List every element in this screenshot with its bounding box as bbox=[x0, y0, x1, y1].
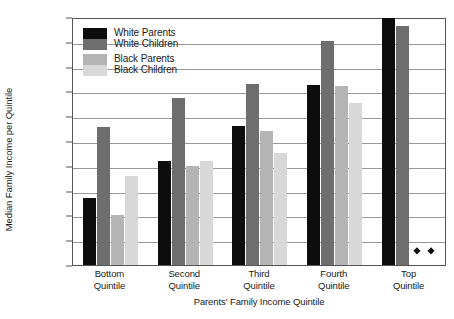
bar bbox=[200, 161, 213, 265]
x-tick-label: BottomQuintile bbox=[94, 268, 125, 291]
bar bbox=[158, 161, 171, 265]
bar bbox=[246, 84, 259, 265]
x-axis-ticks: BottomQuintileSecondQuintileThirdQuintil… bbox=[72, 268, 446, 296]
legend-label-white-children: White Children bbox=[114, 38, 178, 49]
bar bbox=[172, 98, 185, 265]
x-tick-label: ThirdQuintile bbox=[243, 268, 274, 291]
legend-swatch-black-parents bbox=[83, 54, 107, 65]
x-axis-title: Parents' Family Income Quintile bbox=[72, 296, 446, 307]
bar-group bbox=[297, 19, 372, 265]
bar bbox=[349, 103, 362, 265]
legend-swatches bbox=[83, 28, 107, 76]
legend-swatch-white-children bbox=[83, 39, 107, 50]
legend-labels: White Parents White Children Black Paren… bbox=[114, 27, 178, 75]
bar bbox=[274, 153, 287, 265]
suppressed-value-marker bbox=[410, 19, 423, 265]
bar bbox=[232, 126, 245, 265]
bar-group bbox=[223, 19, 298, 265]
bar bbox=[260, 131, 273, 265]
bar bbox=[111, 215, 124, 265]
chart-figure: Median Family Income per Quintile $0$10,… bbox=[0, 0, 454, 319]
legend-label-black-parents: Black Parents bbox=[114, 53, 178, 64]
bar bbox=[307, 85, 320, 265]
bar bbox=[382, 18, 395, 265]
bar bbox=[186, 166, 199, 265]
bar bbox=[321, 41, 334, 265]
bar bbox=[83, 198, 96, 265]
plot-area: White Parents White Children Black Paren… bbox=[72, 18, 446, 266]
x-tick-label: FourthQuintile bbox=[318, 268, 349, 291]
legend-label-white-parents: White Parents bbox=[114, 27, 178, 38]
bar bbox=[396, 26, 409, 265]
x-tick-label: TopQuintile bbox=[393, 268, 424, 291]
bar bbox=[335, 86, 348, 265]
diamond-icon bbox=[427, 247, 433, 253]
x-tick-label: SecondQuintile bbox=[168, 268, 200, 291]
diamond-icon bbox=[413, 247, 419, 253]
suppressed-value-marker bbox=[424, 19, 437, 265]
bar bbox=[125, 176, 138, 265]
legend-label-black-children: Black Children bbox=[114, 64, 178, 75]
bar-group bbox=[372, 19, 447, 265]
legend-swatch-white-parents bbox=[83, 28, 107, 39]
bar bbox=[97, 127, 110, 265]
legend-swatch-black-children bbox=[83, 65, 107, 76]
legend: White Parents White Children Black Paren… bbox=[83, 27, 178, 76]
